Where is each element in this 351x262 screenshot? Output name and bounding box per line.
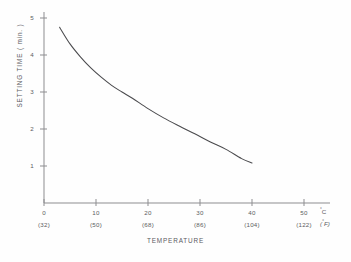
x-tick-label-c-40: 40 xyxy=(240,210,264,216)
x-tick-label-c-30: 30 xyxy=(188,210,212,216)
celsius-letter: C xyxy=(322,208,326,215)
y-tick-label-4: 4 xyxy=(22,52,34,58)
x-tick-label-f-50: (50) xyxy=(84,222,108,228)
x-tick-label-c-0: 0 xyxy=(32,210,56,216)
y-tick-label-3: 3 xyxy=(22,89,34,95)
celsius-unit-label: °C xyxy=(320,209,326,215)
x-tick-label-c-50: 50 xyxy=(292,210,316,216)
x-tick-label-f-68: (68) xyxy=(136,222,160,228)
x-tick-label-f-32: (32) xyxy=(32,222,56,228)
x-tick-label-f-122: (122) xyxy=(292,222,316,228)
y-tick-label-1: 1 xyxy=(22,163,34,169)
x-tick-label-c-20: 20 xyxy=(136,210,160,216)
chart-figure: 5 4 3 2 1 0 10 20 30 40 50 °C (32) (50) … xyxy=(0,0,351,262)
fahrenheit-unit-label: (°F) xyxy=(320,221,330,227)
x-tick-label-f-86: (86) xyxy=(188,222,212,228)
y-tick-label-5: 5 xyxy=(22,15,34,21)
y-tick-label-2: 2 xyxy=(22,126,34,132)
x-axis-title: TEMPERATURE xyxy=(0,237,351,244)
x-tick-label-c-10: 10 xyxy=(84,210,108,216)
x-tick-label-f-104: (104) xyxy=(240,222,264,228)
fahrenheit-letter: F xyxy=(324,220,328,227)
data-series-line xyxy=(60,27,252,163)
y-axis-title: SETTING TIME ( min. ) xyxy=(16,14,23,118)
